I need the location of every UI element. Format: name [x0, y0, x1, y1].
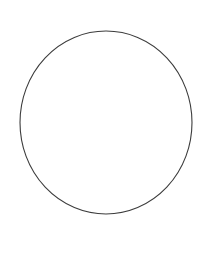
image-canvas	[0, 0, 215, 261]
figure-container	[0, 0, 215, 261]
background-rect	[0, 0, 215, 261]
